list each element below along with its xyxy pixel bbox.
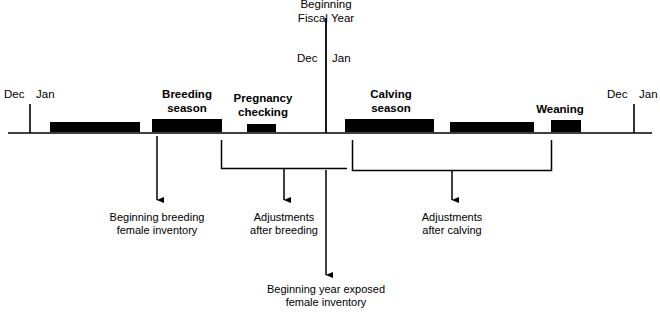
pregnancy-checking-label-line2: checking (234, 106, 293, 120)
fiscal-year-title-line2: Fiscal Year (298, 12, 354, 26)
annotation-beginning-breeding-female-inventory: Beginning breeding female inventory (110, 211, 205, 237)
breeding-season-label: Breeding season (162, 88, 212, 115)
weaning-label: Weaning (536, 103, 584, 117)
bar-calving-season (345, 119, 434, 132)
pregnancy-checking-label: Pregnancy checking (234, 92, 293, 119)
cattle-production-cycle-diagram: Beginning Fiscal Year Dec Jan Dec Jan De… (0, 0, 660, 314)
fiscal-jan-label: Jan (332, 52, 351, 66)
annotation-beginning-breeding-female-inventory-line1: Beginning breeding (110, 211, 205, 224)
calving-season-label-line1: Calving (370, 88, 412, 102)
bar-weaning (551, 120, 581, 132)
left-dec-label: Dec (4, 88, 24, 102)
calving-season-label-line2: season (370, 102, 412, 116)
annotation-beginning-year-exposed-female-inventory: Beginning year exposed female inventory (267, 283, 385, 309)
pregnancy-checking-label-line1: Pregnancy (234, 92, 293, 106)
bar-unlabeled-2 (450, 122, 534, 132)
breeding-season-label-line2: season (162, 102, 212, 116)
annotation-adjustments-after-breeding: Adjustments after breeding (250, 211, 318, 237)
bar-unlabeled-1 (50, 122, 140, 132)
fiscal-year-title: Beginning Fiscal Year (298, 0, 354, 25)
annotation-adjustments-after-calving: Adjustments after calving (422, 211, 483, 237)
fiscal-year-title-line1: Beginning (298, 0, 354, 12)
annotation-beginning-breeding-female-inventory-line2: female inventory (110, 224, 205, 237)
annotation-adjustments-after-calving-line2: after calving (422, 224, 483, 237)
bar-pregnancy-checking (247, 124, 276, 132)
left-jan-label: Jan (36, 88, 55, 102)
right-jan-label: Jan (639, 88, 658, 102)
annotation-adjustments-after-breeding-line2: after breeding (250, 224, 318, 237)
diagram-canvas (0, 0, 660, 314)
bracket-after-calving (353, 140, 552, 171)
right-dec-label: Dec (607, 88, 627, 102)
annotation-adjustments-after-calving-line1: Adjustments (422, 211, 483, 224)
fiscal-dec-label: Dec (297, 52, 317, 66)
breeding-season-label-line1: Breeding (162, 88, 212, 102)
weaning-label-line1: Weaning (536, 103, 584, 117)
calving-season-label: Calving season (370, 88, 412, 115)
annotation-adjustments-after-breeding-line1: Adjustments (250, 211, 318, 224)
annotation-beginning-year-exposed-female-inventory-line2: female inventory (267, 296, 385, 309)
bar-breeding-season (152, 119, 222, 132)
annotation-beginning-year-exposed-female-inventory-line1: Beginning year exposed (267, 283, 385, 296)
bracket-after-breeding (222, 140, 348, 169)
